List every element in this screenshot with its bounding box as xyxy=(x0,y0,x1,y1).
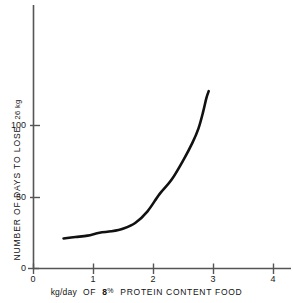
chart-figure: 0 1 2 3 4 0 50 100 kg/day OF 8% PROTEIN … xyxy=(0,0,293,303)
x-axis-title-mid: OF xyxy=(83,287,96,297)
y-axis-title: NUMBER OF DAYS TO LOSE 26 kg xyxy=(12,75,22,285)
x-axis-title-lead: kg/day xyxy=(51,287,77,297)
chart-canvas xyxy=(0,0,293,303)
x-tick-label-3: 3 xyxy=(210,274,215,284)
x-tick-label-2: 2 xyxy=(150,274,155,284)
x-tick-label-4: 4 xyxy=(270,274,275,284)
y-axis-title-unit: 26 kg xyxy=(13,100,22,120)
x-axis-title: kg/day OF 8% PROTEIN CONTENT FOOD xyxy=(0,287,293,297)
x-tick-label-0: 0 xyxy=(30,274,35,284)
y-axis-title-main: NUMBER OF DAYS TO LOSE xyxy=(12,126,22,261)
x-tick-label-1: 1 xyxy=(90,274,95,284)
x-axis-title-tail: PROTEIN CONTENT FOOD xyxy=(120,287,242,297)
data-curve xyxy=(64,91,209,238)
percent-icon: % xyxy=(107,287,114,294)
